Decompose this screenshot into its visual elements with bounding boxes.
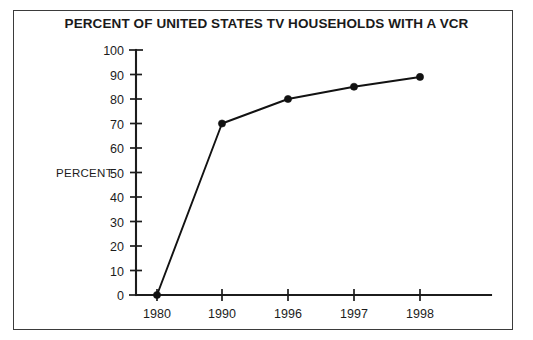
series-line-vcr-percent	[157, 77, 420, 295]
chart-figure: PERCENT OF UNITED STATES TV HOUSEHOLDS W…	[0, 0, 533, 340]
y-tick-label-60: 60	[110, 142, 124, 156]
series-markers	[153, 73, 423, 298]
y-tick-label-10: 10	[110, 265, 124, 279]
data-point-1990	[218, 120, 225, 127]
y-tick-label-100: 100	[103, 44, 124, 58]
x-tick-label-1990: 1990	[208, 307, 236, 321]
data-point-1996	[284, 95, 291, 102]
y-tick-label-20: 20	[110, 240, 124, 254]
data-point-1998	[416, 73, 423, 80]
data-point-1997	[350, 83, 357, 90]
y-tick-label-0: 0	[117, 289, 124, 303]
y-tick-label-30: 30	[110, 216, 124, 230]
y-tick-label-90: 90	[110, 69, 124, 83]
y-tick-label-70: 70	[110, 118, 124, 132]
x-tick-label-1996: 1996	[274, 307, 302, 321]
x-tick-label-1997: 1997	[340, 307, 368, 321]
y-tick-label-80: 80	[110, 93, 124, 107]
line-chart-plot: 100 90 80 70 60 50 40 30 20 10 0 PERCENT…	[0, 0, 533, 340]
y-axis-label: PERCENT	[56, 167, 113, 179]
x-tick-label-1998: 1998	[406, 307, 434, 321]
x-axis-tick-labels: 1980 1990 1996 1997 1998	[143, 307, 434, 321]
data-point-1980	[153, 291, 160, 298]
x-tick-label-1980: 1980	[143, 307, 171, 321]
y-tick-label-40: 40	[110, 191, 124, 205]
